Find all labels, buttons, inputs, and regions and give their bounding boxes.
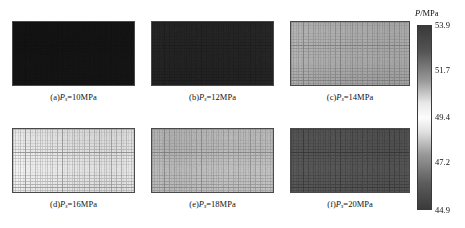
colorbar-title: P/MPa bbox=[415, 8, 439, 18]
colorbar-tick-51-7: 51.7 bbox=[435, 65, 450, 75]
colorbar-tick-44-9: 44.9 bbox=[435, 205, 450, 215]
colorbar-tick-47-2: 47.2 bbox=[435, 157, 450, 167]
colorbar-tick-53-9: 53.9 bbox=[435, 20, 450, 30]
colorbar-gradient bbox=[417, 25, 432, 210]
pressure-contour-figure: (a)Ps=10MPa (b)Ps=12MPa (c)Ps=14MPa (d)P… bbox=[0, 0, 465, 228]
colorbar: P/MPa 53.951.749.447.244.9 bbox=[0, 0, 465, 228]
colorbar-tick-49-4: 49.4 bbox=[435, 112, 450, 122]
